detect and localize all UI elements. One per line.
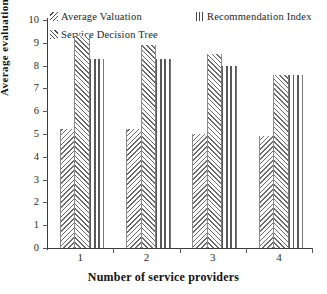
y-axis-tick-label: 10 — [17, 15, 39, 26]
y-axis-tick-label: 6 — [17, 106, 39, 117]
bar-service-decision-tree-group-4 — [273, 75, 289, 248]
y-axis-tick-label: 0 — [17, 243, 39, 254]
bar-service-decision-tree-group-1 — [74, 36, 90, 248]
y-axis-tick-label: 1 — [17, 220, 39, 231]
bar-recommendation-index-group-3 — [221, 66, 237, 248]
y-axis-tick-label: 2 — [17, 197, 39, 208]
y-axis-tick-label: 5 — [17, 129, 39, 140]
x-axis-tick-label: 2 — [134, 252, 158, 263]
bar-service-decision-tree-group-3 — [207, 54, 223, 248]
x-axis-tick-label: 4 — [267, 252, 291, 263]
x-axis-tick — [113, 248, 114, 253]
bar-average-valuation-group-4 — [259, 136, 275, 248]
y-axis-tick-label: 7 — [17, 83, 39, 94]
bar-recommendation-index-group-2 — [155, 59, 171, 248]
x-axis-title: Number of service providers — [0, 270, 327, 285]
x-axis-tick — [246, 248, 247, 253]
bar-chart: Average Valuation Recommendation Index S… — [0, 0, 327, 294]
y-axis-tick — [43, 248, 48, 249]
bar-recommendation-index-group-1 — [89, 59, 105, 248]
bar-average-valuation-group-3 — [192, 134, 208, 248]
x-axis-tick-label: 3 — [201, 252, 225, 263]
x-axis-tick — [312, 248, 313, 253]
y-axis-tick-label: 8 — [17, 61, 39, 72]
y-axis-tick-label: 3 — [17, 175, 39, 186]
x-axis-tick-label: 1 — [68, 252, 92, 263]
bar-average-valuation-group-1 — [60, 129, 76, 248]
y-axis-title: Average evaluation — [0, 0, 10, 96]
plot-area — [47, 20, 312, 248]
y-axis-tick-label: 9 — [17, 38, 39, 49]
y-axis-tick-label: 4 — [17, 152, 39, 163]
bar-recommendation-index-group-4 — [288, 75, 304, 248]
x-axis-tick — [180, 248, 181, 253]
bar-service-decision-tree-group-2 — [141, 45, 157, 248]
bar-average-valuation-group-2 — [126, 129, 142, 248]
